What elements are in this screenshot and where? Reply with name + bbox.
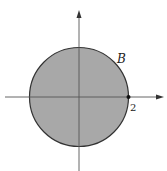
- point-marker: [127, 95, 131, 99]
- diagram: B 2: [0, 0, 167, 171]
- point-label: 2: [130, 102, 136, 113]
- y-axis-arrow-icon: [77, 10, 82, 18]
- disk-diagram: B 2: [0, 0, 167, 171]
- x-axis-arrow-icon: [156, 95, 164, 100]
- region-label: B: [116, 52, 126, 66]
